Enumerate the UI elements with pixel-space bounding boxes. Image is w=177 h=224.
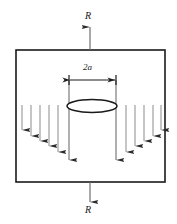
fracture-mechanics-diagram <box>0 0 177 224</box>
crack-ellipse <box>67 100 117 113</box>
load-label-bottom: R <box>85 205 91 215</box>
crack-width-label: 2a <box>83 63 92 72</box>
load-label-top: R <box>85 11 91 21</box>
